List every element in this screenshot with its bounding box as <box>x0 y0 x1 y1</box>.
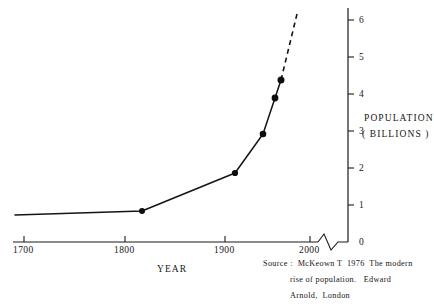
x-axis-ticks <box>24 236 310 242</box>
population-line-observed <box>15 80 281 215</box>
x-tick-label-1800: 1800 <box>114 245 135 255</box>
x-tick-label-1700: 1700 <box>13 245 34 255</box>
y-axis-ticks <box>348 20 354 205</box>
source-line-2: rise of population. Edward <box>290 275 391 284</box>
y-axis-title-population: POPULATION <box>364 113 434 123</box>
x-axis-title-year: YEAR <box>157 264 187 274</box>
data-point-1982 <box>278 77 285 84</box>
data-point-1960 <box>260 131 267 138</box>
x-tick-label-2000: 2000 <box>299 245 320 255</box>
x-axis-break-zigzag <box>318 234 348 250</box>
y-axis-title-billions: ( BILLIONS ) <box>362 129 430 139</box>
x-tick-label-1900: 1900 <box>214 245 235 255</box>
y-tick-label-6: 6 <box>359 15 364 25</box>
source-line-1: Source : McKeown T 1976 The modern <box>263 259 413 268</box>
population-line-projected <box>281 14 297 80</box>
y-tick-label-4: 4 <box>359 89 364 99</box>
data-point-1930 <box>232 170 238 176</box>
source-line-3: Arnold, London <box>290 291 350 300</box>
data-point-markers <box>139 77 285 215</box>
y-tick-label-5: 5 <box>359 52 364 62</box>
y-tick-label-1: 1 <box>359 200 364 210</box>
y-tick-label-2: 2 <box>359 163 364 173</box>
data-point-1975 <box>272 95 279 102</box>
y-tick-label-0: 0 <box>359 237 364 247</box>
data-point-1830 <box>139 208 145 214</box>
